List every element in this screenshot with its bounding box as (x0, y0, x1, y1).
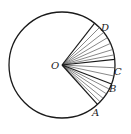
radius-od (62, 23, 95, 65)
circle-diagram: O A B C D (0, 0, 131, 134)
point-label-d: D (100, 22, 109, 33)
ray (62, 43, 110, 65)
point-label-a: A (91, 107, 99, 118)
ray (62, 32, 104, 65)
center-label-o: O (51, 60, 59, 71)
ray (62, 65, 109, 89)
point-label-b: B (108, 83, 116, 94)
point-label-c: C (114, 66, 122, 77)
ray (62, 65, 103, 98)
